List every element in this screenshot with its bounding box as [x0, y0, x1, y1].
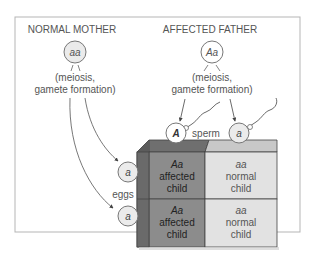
mother-process-line1: (meiosis,: [55, 72, 95, 83]
cell3-genotype: Aa: [170, 205, 184, 216]
cell4-genotype: aa: [235, 205, 247, 216]
eggs-label: eggs: [112, 189, 134, 200]
mother-genotype: aa: [69, 47, 81, 58]
pedigree-diagram: NORMAL MOTHER aa (meiosis, gamete format…: [0, 0, 315, 262]
sperm-a-label: a: [236, 128, 242, 139]
cell4-line1: normal: [226, 217, 257, 228]
cell2-line2: child: [231, 183, 252, 194]
father-process-line2: gamete formation): [171, 84, 252, 95]
father-genotype: Aa: [205, 47, 219, 58]
mother-process-line2: gamete formation): [34, 84, 115, 95]
father-title: AFFECTED FATHER: [163, 24, 257, 35]
cell2-line1: normal: [226, 171, 257, 182]
cell3-line2: child: [167, 229, 188, 240]
sperm-A-label: A: [171, 128, 179, 139]
cell3-line1: affected: [159, 217, 194, 228]
egg-2-label: a: [125, 211, 131, 222]
cell1-line2: child: [167, 183, 188, 194]
father-process-line1: (meiosis,: [192, 72, 232, 83]
cell1-line1: affected: [159, 171, 194, 182]
cell2-genotype: aa: [235, 159, 247, 170]
mother-title: NORMAL MOTHER: [28, 24, 117, 35]
egg-1-label: a: [125, 167, 131, 178]
cell1-genotype: Aa: [170, 159, 184, 170]
cell4-line2: child: [231, 229, 252, 240]
sperm-label: sperm: [192, 128, 220, 139]
